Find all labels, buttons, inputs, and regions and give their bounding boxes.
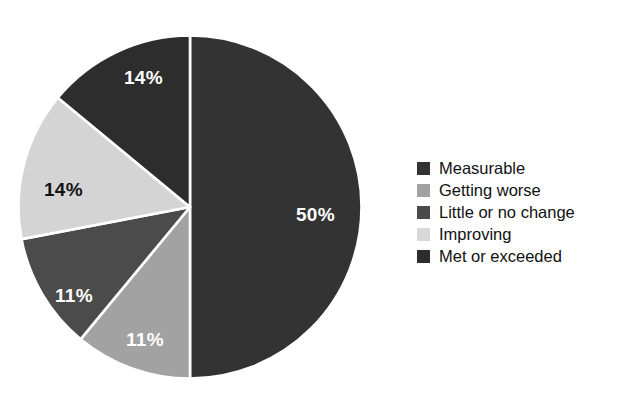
legend-item-label: Little or no change [439,204,575,221]
legend-item-label: Getting worse [439,182,541,199]
legend-swatch-icon [417,162,430,175]
chart-legend: MeasurableGetting worseLittle or no chan… [417,157,613,267]
legend-swatch-icon [417,184,430,197]
legend-item[interactable]: Improving [417,223,613,245]
legend-item-label: Met or exceeded [439,248,562,265]
pie-slice-value-label: 11% [126,330,164,349]
legend-swatch-icon [417,206,430,219]
legend-item[interactable]: Little or no change [417,201,613,223]
pie-slice-value-label: 14% [44,180,83,199]
legend-swatch-icon [417,228,430,241]
chart-title-cutoff: Status of Measures [0,0,619,7]
legend-item-label: Measurable [439,160,525,177]
pie-slice-value-label: 50% [296,205,335,224]
pie-slice-value-label: 11% [55,286,93,305]
pie-slice-value-label: 14% [124,68,163,87]
legend-item[interactable]: Measurable [417,157,613,179]
legend-swatch-icon [417,250,430,263]
legend-item[interactable]: Met or exceeded [417,245,613,267]
pie-slice [190,36,362,379]
chart-title-text: Status of Measures [0,0,410,3]
legend-item-label: Improving [439,226,511,243]
legend-item[interactable]: Getting worse [417,179,613,201]
